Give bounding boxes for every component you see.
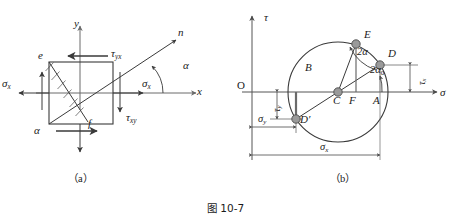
alpha0-subscript: 0 (381, 69, 384, 76)
figure-caption: 图 10-7 (207, 200, 244, 215)
tau-yx-label: τyx (111, 48, 121, 61)
figure-10-7: y x n α e f α σx σx τyx τxy （a） (0, 0, 461, 222)
point-label-D-prime: D′ (300, 114, 310, 125)
sigma-y-subscript: y (263, 118, 266, 125)
angle-alpha-arc (152, 66, 163, 93)
point-label-F: F (349, 95, 356, 106)
sigma-x-dimension (252, 92, 380, 160)
panel-a-angle-alpha-label: α (183, 60, 189, 71)
tau-y-subscript: y (275, 105, 282, 108)
tau-xy-subscript: xy (130, 117, 136, 125)
sigma-x-left-label: σx (2, 78, 11, 91)
sigma-x-dimension-label: σx (320, 142, 328, 153)
alpha-glyph: α (362, 46, 368, 57)
element-corner-e-label: e (38, 50, 43, 61)
point-label-C: C (333, 95, 340, 106)
panel-a-x-axis-label: x (197, 86, 202, 97)
element-corner-f-label: f (88, 118, 91, 129)
panel-b-sigma-axis-label: σ (440, 87, 445, 98)
tau-glyph: τ (271, 108, 282, 112)
point-label-B: B (305, 62, 312, 73)
panel-a-n-axis-label: n (178, 27, 184, 38)
point-label-A: A (373, 95, 380, 106)
panel-b-tau-axis-label: τ (264, 12, 268, 23)
angle-2alpha-label: 2α (357, 47, 368, 58)
inclined-section-ef (46, 62, 89, 122)
element-angle-alpha-label: α (34, 125, 40, 136)
point-marker-Dprime (292, 115, 300, 123)
angle-2alpha0-label: 2α0 (370, 65, 384, 76)
sigma-x-subscript: x (325, 146, 328, 153)
tau-x-dimension-label: τx (417, 78, 428, 85)
tau-y-dimension-label: τy (272, 105, 283, 112)
sigma-x-right-label: σx (142, 78, 151, 91)
tau-glyph: τ (416, 81, 427, 85)
sigma-x-left-subscript: x (7, 83, 10, 91)
panel-a-graphics (0, 0, 230, 200)
sigma-x-right-subscript: x (147, 83, 150, 91)
panel-a-caption: （a） (68, 170, 93, 185)
sigma-y-dimension-label: σy (258, 114, 266, 125)
panel-b-caption: （b） (330, 170, 355, 185)
tau-x-subscript: x (420, 78, 427, 81)
tau-xy-label: τxy (126, 112, 136, 125)
point-label-E: E (364, 29, 371, 40)
tau-yx-subscript: yx (115, 53, 121, 61)
point-label-D: D (388, 48, 396, 59)
panel-a-y-axis-label: y (74, 18, 79, 29)
radius-C-E (338, 44, 356, 92)
panel-b-origin-label: O (237, 80, 245, 91)
